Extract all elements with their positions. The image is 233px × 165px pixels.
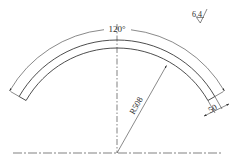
right-extension-line	[215, 92, 224, 97]
angle-dimension-arc-left	[10, 30, 104, 91]
technical-drawing: 120° R508 50 6.4	[0, 0, 233, 165]
radius-dimension-label: R508	[127, 95, 145, 116]
radius-dimension-line	[117, 66, 167, 154]
angle-dimension-label: 120°	[108, 24, 126, 34]
left-extension-line	[11, 92, 20, 97]
right-end-cap	[208, 97, 215, 101]
width-dimension-label: 50	[206, 102, 218, 115]
angle-dimension-arc-right	[131, 30, 224, 91]
left-end-cap	[19, 97, 26, 101]
surface-roughness-value: 6.4	[192, 10, 202, 19]
